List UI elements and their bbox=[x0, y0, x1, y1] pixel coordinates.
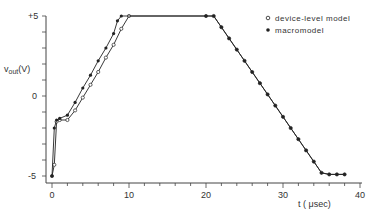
filled-circle-marker bbox=[305, 149, 308, 152]
filled-circle-marker bbox=[97, 59, 100, 62]
filled-circle-marker bbox=[228, 37, 231, 40]
filled-circle-marker bbox=[312, 160, 315, 163]
series-line-macromodel bbox=[52, 16, 345, 176]
y-axis-label: vout(V) bbox=[4, 64, 30, 75]
legend-device-level-model: device-level model bbox=[275, 14, 350, 23]
filled-circle-marker bbox=[212, 14, 215, 17]
filled-circle-marker bbox=[266, 93, 269, 96]
filled-circle-marker bbox=[104, 46, 107, 49]
open-circle-marker bbox=[81, 96, 84, 99]
filled-circle-marker bbox=[297, 138, 300, 141]
y-tick-label: 0 bbox=[32, 91, 37, 101]
open-circle-marker bbox=[104, 56, 107, 59]
plot-series bbox=[50, 14, 346, 177]
y-ticks: -50+5 bbox=[28, 11, 46, 181]
filled-circle-marker bbox=[328, 173, 331, 176]
filled-circle-marker bbox=[58, 117, 61, 120]
legend: device-level model macromodel bbox=[266, 14, 350, 35]
x-tick-label: 40 bbox=[355, 190, 365, 200]
filled-circle-marker bbox=[235, 48, 238, 51]
filled-circle-marker bbox=[89, 74, 92, 77]
filled-circle-marker bbox=[343, 173, 346, 176]
chart: -50+5 010203040 vout(V) t ( μsec) device… bbox=[0, 0, 375, 219]
filled-circle-marker bbox=[120, 14, 123, 17]
filled-circle-marker bbox=[66, 114, 69, 117]
filled-circle-marker bbox=[281, 115, 284, 118]
open-circle-marker-icon bbox=[266, 16, 270, 20]
open-circle-marker bbox=[112, 43, 115, 46]
legend-macromodel: macromodel bbox=[275, 26, 324, 35]
filled-circle-marker bbox=[320, 171, 323, 174]
filled-circle-marker bbox=[116, 19, 119, 22]
axes bbox=[46, 16, 362, 183]
filled-circle-marker bbox=[251, 70, 254, 73]
filled-circle-marker bbox=[243, 59, 246, 62]
series-line-device-level-model bbox=[52, 16, 345, 176]
x-tick-label: 30 bbox=[278, 190, 288, 200]
filled-circle-marker bbox=[335, 173, 338, 176]
open-circle-marker bbox=[97, 70, 100, 73]
x-tick-label: 10 bbox=[124, 190, 134, 200]
filled-circle-marker bbox=[74, 101, 77, 104]
x-tick-label: 0 bbox=[49, 190, 54, 200]
filled-circle-marker bbox=[55, 118, 58, 121]
filled-circle-marker bbox=[258, 82, 261, 85]
y-tick-label: +5 bbox=[28, 11, 38, 21]
open-circle-marker bbox=[120, 27, 123, 30]
open-circle-marker bbox=[53, 163, 56, 166]
open-circle-marker bbox=[74, 109, 77, 112]
filled-circle-marker bbox=[53, 126, 56, 129]
open-circle-marker bbox=[89, 83, 92, 86]
filled-circle-marker bbox=[50, 174, 53, 177]
open-circle-marker bbox=[66, 118, 69, 121]
filled-circle-marker bbox=[204, 14, 207, 17]
y-tick-label: -5 bbox=[28, 171, 36, 181]
filled-circle-marker-icon bbox=[266, 28, 270, 32]
x-tick-label: 20 bbox=[201, 190, 211, 200]
x-axis-label: t ( μsec) bbox=[298, 199, 331, 209]
filled-circle-marker bbox=[81, 86, 84, 89]
filled-circle-marker bbox=[112, 32, 115, 35]
filled-circle-marker bbox=[220, 26, 223, 29]
x-ticks: 010203040 bbox=[49, 183, 365, 200]
filled-circle-marker bbox=[274, 104, 277, 107]
filled-circle-marker bbox=[289, 126, 292, 129]
